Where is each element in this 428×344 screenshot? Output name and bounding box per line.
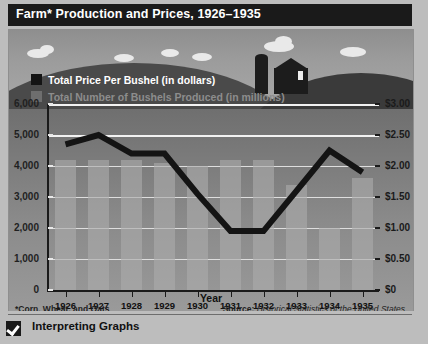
x-axis-title: Year <box>9 292 413 304</box>
legend-swatch-price <box>31 74 42 85</box>
plot-area <box>49 104 379 290</box>
y-axis-tick <box>48 227 53 229</box>
y2-axis-tick-label: $1.50 <box>385 191 410 202</box>
cloud-icon <box>192 53 212 61</box>
y-axis-tick-label: 2,000 <box>14 222 39 233</box>
y2-axis-tick-label: $2.50 <box>385 129 410 140</box>
y2-axis-tick <box>375 103 380 105</box>
y-axis-tick-label: 5,000 <box>14 129 39 140</box>
barn-window-icon <box>298 71 303 80</box>
caption-title: Interpreting Graphs <box>32 320 139 332</box>
cloud-icon <box>161 49 179 57</box>
y-axis-tick-label: 3,000 <box>14 191 39 202</box>
cloud-icon <box>275 36 292 47</box>
divider <box>8 314 412 315</box>
source-name: Historical Statistics of the United Stat… <box>257 304 405 311</box>
cloud-icon <box>114 54 134 62</box>
chart-legend: Total Price Per Bushel (in dollars) Tota… <box>31 72 285 106</box>
cloud-icon <box>40 45 54 54</box>
page-title: Farm* Production and Prices, 1926–1935 <box>16 7 261 21</box>
y2-axis-tick <box>375 165 380 167</box>
y-axis-tick <box>48 258 53 260</box>
y-axis-tick-label: 4,000 <box>14 160 39 171</box>
chart-title-bar: Farm* Production and Prices, 1926–1935 <box>8 4 412 26</box>
legend-item-price: Total Price Per Bushel (in dollars) <box>31 72 285 87</box>
cloud-icon <box>340 47 366 57</box>
check-mark-icon <box>6 321 21 336</box>
figure-page: Farm* Production and Prices, 1926–1935 T… <box>0 0 428 344</box>
y-axis-tick <box>48 196 53 198</box>
y2-axis-tick <box>375 227 380 229</box>
price-line <box>49 104 379 290</box>
y2-axis-tick-label: $2.00 <box>385 160 410 171</box>
legend-label-price: Total Price Per Bushel (in dollars) <box>48 74 215 86</box>
y2-axis-tick-label: $3.00 <box>385 98 410 109</box>
source-label: Source: <box>223 304 255 311</box>
y2-axis-tick-label: $1.00 <box>385 222 410 233</box>
y2-axis-tick <box>375 289 380 291</box>
caption-body <box>32 336 424 344</box>
chart-footnote: *Corn, Wheat, and Oats <box>15 304 109 311</box>
y2-axis-tick <box>375 134 380 136</box>
y-axis-tick-label: 6,000 <box>14 98 39 109</box>
legend-label-bushels: Total Number of Bushels Produced (in mil… <box>48 91 285 103</box>
y-axis-tick <box>48 103 53 105</box>
y-axis-tick-label: 1,000 <box>14 253 39 264</box>
y2-axis-tick <box>375 196 380 198</box>
y-axis-tick <box>48 289 53 291</box>
y-axis-line <box>47 104 49 292</box>
silo-cap-icon <box>255 54 268 61</box>
chart-source: Source: Historical Statistics of the Uni… <box>223 304 405 311</box>
y2-axis-tick-label: $0.50 <box>385 253 410 264</box>
y2-axis-tick <box>375 258 380 260</box>
chart-figure: Total Price Per Bushel (in dollars) Tota… <box>8 29 414 311</box>
legend-item-bushels: Total Number of Bushels Produced (in mil… <box>31 89 285 104</box>
y-axis-tick <box>48 134 53 136</box>
y-axis-tick <box>48 165 53 167</box>
